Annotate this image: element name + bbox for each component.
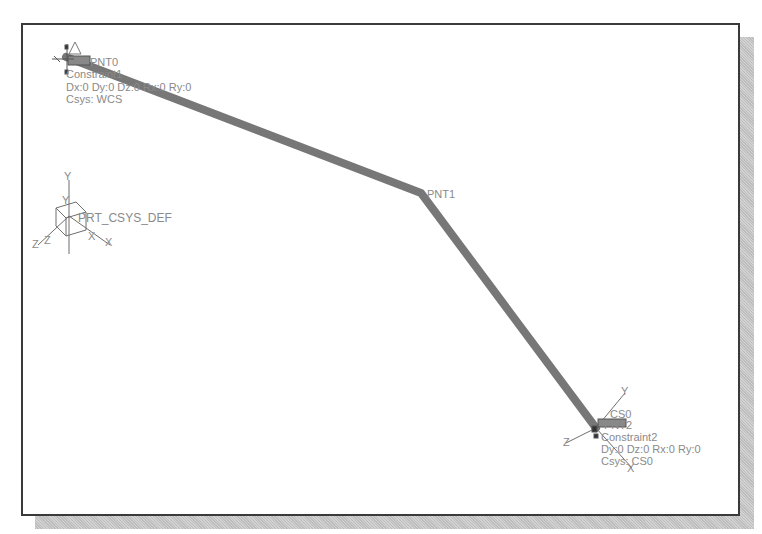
constraint1-name: Constraint1: [66, 68, 122, 80]
constraint2-name: Constraint2: [601, 431, 657, 443]
constraint1-csys: Csys: WCS: [66, 93, 122, 105]
prt-csys-z-axis-inner: Z: [44, 234, 51, 246]
constraint1-dofs: Dx:0 Dy:0 Dz:0 Rx:0 Ry:0: [66, 81, 191, 93]
cs0-y-axis: Y: [621, 385, 629, 397]
pnt2-label: PNT2: [604, 419, 632, 431]
prt-csys-label: PRT_CSYS_DEF: [78, 211, 172, 225]
pnt0-label: PNT0: [90, 56, 118, 68]
beam[interactable]: [66, 57, 596, 428]
prt-csys-x-axis: X: [105, 236, 113, 248]
constraint2-csys: Csys: CS0: [601, 455, 653, 467]
prt-csys-x-axis-inner: X: [88, 230, 96, 242]
prt-csys-z-axis: Z: [32, 238, 39, 250]
pnt1-label: PNT1: [427, 188, 455, 200]
prt-csys-y-axis-inner: Y: [62, 194, 70, 206]
constraint2-dofs: Dy:0 Dz:0 Rx:0 Ry:0: [601, 443, 701, 455]
model-canvas[interactable]: PNT0 Constraint1 Dx:0 Dy:0 Dz:0 Rx:0 Ry:…: [0, 0, 762, 534]
cs0-z-axis: Z: [563, 436, 570, 448]
prt-csys-y-axis: Y: [64, 170, 72, 182]
